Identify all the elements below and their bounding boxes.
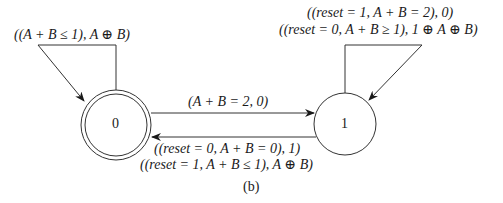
edge-0-to-1-label: (A + B = 2, 0) (188, 94, 268, 110)
self-loop-1-label-line1: ((reset = 1, A + B = 2), 0) (307, 5, 453, 21)
edge-1-to-0-label-line1: ((reset = 0, A + B = 0), 1) (154, 141, 300, 157)
self-loop-0 (38, 45, 116, 101)
self-loop-1-label-line2: ((reset = 0, A + B ≥ 1), 1 ⊕ A ⊕ B) (279, 22, 478, 38)
edge-1-to-0-label-line2: ((reset = 1, A + B ≤ 1), A ⊕ B) (140, 157, 313, 173)
self-loop-1 (345, 45, 422, 100)
figure-caption: (b) (243, 179, 259, 195)
self-loop-0-label: ((A + B ≤ 1), A ⊕ B) (14, 27, 130, 43)
state-0-label: 0 (112, 116, 119, 132)
state-1-label: 1 (341, 116, 348, 132)
